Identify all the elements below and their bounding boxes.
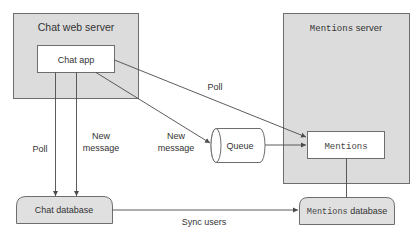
- chat-app: Chat app: [38, 46, 115, 73]
- mentions-server-title: Mentions server: [310, 22, 382, 34]
- chat-database: Chat database: [17, 197, 113, 224]
- edge-new-message-queue: [96, 73, 210, 144]
- edge-poll-mentions: [115, 60, 307, 137]
- label-poll-mentions: Poll: [207, 82, 222, 92]
- queue-label: Queue: [226, 141, 253, 151]
- mentions-database-label: Mentions database: [307, 206, 387, 217]
- chat-web-server-title: Chat web server: [38, 21, 115, 33]
- architecture-diagram: Chat web server Chat app Mentions server…: [0, 0, 419, 237]
- chat-app-label: Chat app: [58, 55, 95, 65]
- label-new-message-left-1: New: [92, 131, 111, 141]
- chat-database-label: Chat database: [35, 205, 94, 215]
- label-sync-users: Sync users: [182, 217, 227, 227]
- label-new-message-queue-2: message: [158, 143, 195, 153]
- label-new-message-queue-1: New: [167, 131, 186, 141]
- queue: Queue: [211, 129, 265, 163]
- mentions-app-label: Mentions: [324, 142, 367, 152]
- mentions-database: Mentions database: [300, 198, 395, 225]
- label-new-message-left-2: message: [83, 143, 120, 153]
- mentions-app: Mentions: [308, 132, 385, 159]
- label-poll-left: Poll: [32, 144, 47, 154]
